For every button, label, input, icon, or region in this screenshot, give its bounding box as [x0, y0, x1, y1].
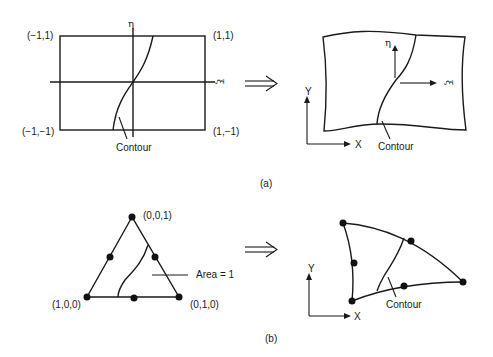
contour-leader-line: [388, 277, 396, 297]
parent-triangle-boundary: [87, 217, 179, 297]
figure-b-physical-element: Contour Y X: [306, 220, 467, 323]
corner-label-bottom-right: (1,−1): [213, 126, 239, 137]
node-midside-left: [107, 254, 114, 261]
node-midside-bottom: [401, 283, 408, 290]
node-midside-left: [351, 260, 358, 267]
vertex-label-top: (0,0,1): [143, 210, 172, 221]
figure-a-caption: (a): [260, 178, 272, 189]
figure-b-parent-triangle: (0,0,1) (1,0,0) (0,1,0) Area = 1: [52, 210, 235, 310]
figure-a-mapping-arrow-icon: [245, 76, 277, 91]
figure-a-physical-element: η ξ Contour Y X: [304, 31, 466, 152]
node-vertex-bottom: [349, 298, 356, 305]
local-eta-label: η: [385, 37, 391, 48]
global-y-label: Y: [308, 263, 315, 274]
node-vertex-top: [129, 214, 136, 221]
contour-label: Contour: [378, 141, 414, 152]
corner-label-bottom-left: (−1,−1): [22, 126, 54, 137]
node-vertex-right: [460, 279, 467, 286]
node-midside-top: [408, 238, 415, 245]
figure-b-mapping-arrow-icon: [245, 242, 277, 257]
node-vertex-bottom-right: [176, 294, 183, 301]
global-x-label: X: [355, 139, 362, 150]
figure-a-parent-square: η ξ (−1,1) (1,1) (−1,−1) (1,−1) Contour: [22, 18, 239, 153]
global-x-label: X: [354, 311, 361, 322]
xi-axis-label: ξ: [215, 79, 226, 85]
contour-leader-line: [119, 117, 127, 139]
eta-axis-label: η: [128, 18, 134, 29]
corner-label-top-right: (1,1): [213, 30, 234, 41]
local-xi-label: ξ: [444, 80, 455, 86]
vertex-label-bottom-right: (0,1,0): [190, 299, 219, 310]
node-vertex-bottom-left: [84, 294, 91, 301]
figure-b-caption: (b): [265, 333, 277, 344]
corner-label-top-left: (−1,1): [27, 30, 53, 41]
contour-curve: [118, 245, 148, 297]
contour-label: Contour: [386, 299, 422, 310]
contour-label: Contour: [116, 142, 152, 153]
node-vertex-top-left: [340, 220, 347, 227]
isoparametric-mapping-diagram: η ξ (−1,1) (1,1) (−1,−1) (1,−1) Contour …: [0, 0, 493, 357]
vertex-label-bottom-left: (1,0,0): [52, 299, 81, 310]
node-midside-bottom: [131, 295, 138, 302]
curved-edge-top: [343, 223, 463, 282]
node-midside-right: [152, 254, 159, 261]
area-label: Area = 1: [196, 269, 235, 280]
global-y-label: Y: [305, 86, 312, 97]
